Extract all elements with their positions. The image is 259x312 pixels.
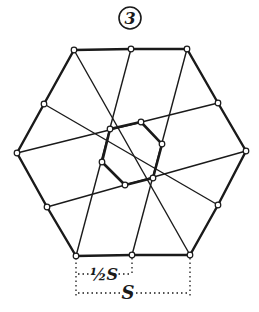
figure-number-badge: 3 <box>119 7 141 29</box>
vertex-marker <box>14 150 20 156</box>
construction-line <box>74 50 190 255</box>
vertex-marker <box>150 175 156 181</box>
vertex-marker <box>215 202 221 208</box>
construction-line <box>44 104 218 205</box>
vertex-marker <box>187 252 193 258</box>
construction-lines <box>17 49 246 256</box>
hexagon-construction-figure: 3 ½S S <box>0 0 259 312</box>
vertex-marker <box>122 182 128 188</box>
vertex-marker <box>107 126 113 132</box>
diagram-canvas: 3 ½S S <box>0 0 259 312</box>
half-side-label: ½S <box>90 265 118 284</box>
vertex-marker <box>215 100 221 106</box>
vertex-marker <box>44 204 50 210</box>
vertex-marker <box>71 47 77 53</box>
vertex-marker <box>129 252 135 258</box>
figure-number: 3 <box>124 9 135 28</box>
vertex-marker <box>138 119 144 125</box>
vertex-marker <box>128 46 134 52</box>
vertex-marker <box>99 159 105 165</box>
side-label: S <box>122 282 135 303</box>
vertex-marker <box>243 148 249 154</box>
vertex-marker <box>159 141 165 147</box>
vertex-marker <box>41 101 47 107</box>
vertex-marker <box>73 253 79 259</box>
vertex-marker <box>184 46 190 52</box>
